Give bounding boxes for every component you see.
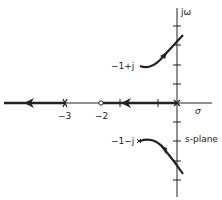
tick-label-minus-3: −3 bbox=[58, 111, 71, 121]
real-axis-label: σ bbox=[195, 106, 201, 116]
plane-label: s-plane bbox=[185, 134, 218, 144]
pole-label-upper: −1+j bbox=[111, 61, 134, 71]
root-locus-diagram: jω σ s-plane −3 −2 −1+j −1−j bbox=[0, 0, 222, 200]
pole-label-lower: −1−j bbox=[111, 136, 134, 146]
imaginary-axis-label: jω bbox=[180, 7, 191, 17]
tick-label-minus-2: −2 bbox=[95, 111, 108, 121]
arrow-down-right-icon bbox=[161, 146, 167, 154]
zero-marker-minus-2 bbox=[99, 101, 103, 105]
